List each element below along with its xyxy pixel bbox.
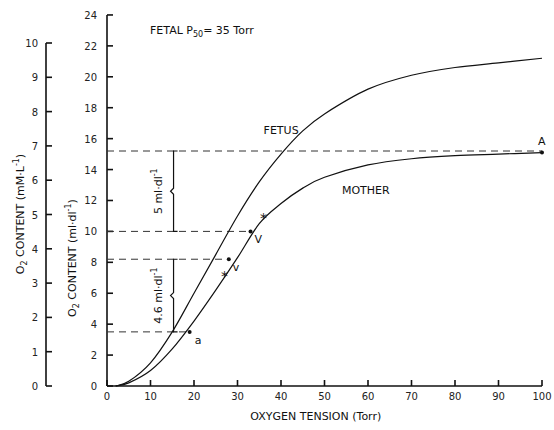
- outer-tick-label: 8: [32, 107, 38, 118]
- reference-dashed-lines: [107, 151, 542, 332]
- outer-y-label: O2 CONTENT (mM·L-1): [12, 154, 29, 274]
- point-label-v: v: [233, 261, 240, 274]
- x-tick-label: 20: [188, 391, 201, 402]
- outer-tick-label: 9: [32, 72, 38, 83]
- asterisk-marker: *: [260, 210, 267, 226]
- x-tick-label: 90: [492, 391, 505, 402]
- x-tick-label: 10: [144, 391, 157, 402]
- bracket-label: 5 ml·dl-1: [150, 168, 165, 214]
- point-label-a: a: [195, 334, 202, 347]
- outer-tick-label: 6: [32, 175, 38, 186]
- asterisk-marker: *: [221, 268, 228, 284]
- inner-tick-label: 10: [84, 226, 97, 237]
- x-tick-label: 0: [104, 391, 110, 402]
- x-axis-oxygen-tension: 0102030405060708090100OXYGEN TENSION (To…: [104, 380, 552, 423]
- outer-tick-label: 5: [32, 210, 38, 221]
- outer-tick-label: 3: [32, 278, 38, 289]
- x-tick-label: 100: [532, 391, 551, 402]
- inner-tick-label: 8: [91, 257, 97, 268]
- oxygen-dissociation-chart: FETAL P50= 35 Torr 012345678910O2 CONTEN…: [0, 0, 554, 430]
- x-tick-label: 70: [405, 391, 418, 402]
- inner-tick-label: 4: [91, 319, 97, 330]
- chart-title: FETAL P50= 35 Torr: [150, 24, 254, 39]
- curve-mother: [116, 153, 542, 386]
- inner-tick-label: 0: [91, 381, 97, 392]
- point-label-A: A: [538, 135, 546, 148]
- inner-y-label: O2 CONTENT (ml·dl-1): [64, 199, 81, 317]
- x-axis-label: OXYGEN TENSION (Torr): [250, 410, 381, 423]
- inner-tick-label: 24: [84, 10, 97, 21]
- outer-tick-label: 2: [32, 312, 38, 323]
- outer-tick-label: 4: [32, 244, 38, 255]
- annotations: FETUSMOTHERAVva**5 ml·dl-14.6 ml·dl-1: [150, 124, 546, 347]
- title-text: FETAL P50= 35 Torr: [150, 24, 254, 39]
- inner-tick-label: 22: [84, 41, 97, 52]
- bracket-label: 4.6 ml·dl-1: [150, 267, 165, 323]
- outer-y-axis-mM: 012345678910O2 CONTENT (mM·L-1): [12, 38, 52, 392]
- mother-label: MOTHER: [342, 184, 390, 197]
- inner-tick-label: 14: [84, 165, 97, 176]
- outer-tick-label: 10: [25, 38, 38, 49]
- inner-y-axis-ml: 024681012141618202224O2 CONTENT (ml·dl-1…: [64, 10, 113, 392]
- inner-tick-label: 16: [84, 134, 97, 145]
- inner-tick-label: 2: [91, 350, 97, 361]
- inner-tick-label: 6: [91, 288, 97, 299]
- inner-tick-label: 18: [84, 103, 97, 114]
- x-tick-label: 80: [449, 391, 462, 402]
- x-tick-label: 60: [362, 391, 375, 402]
- fetus-label: FETUS: [264, 124, 299, 137]
- dissociation-curves: [116, 58, 542, 386]
- point-label-V: V: [255, 233, 263, 246]
- outer-tick-label: 0: [32, 381, 38, 392]
- outer-tick-label: 7: [32, 141, 38, 152]
- inner-tick-label: 20: [84, 72, 97, 83]
- x-tick-label: 30: [231, 391, 244, 402]
- x-tick-label: 40: [275, 391, 288, 402]
- x-tick-label: 50: [318, 391, 331, 402]
- inner-tick-label: 12: [84, 195, 97, 206]
- outer-tick-label: 1: [32, 347, 38, 358]
- curve-fetus: [116, 58, 542, 386]
